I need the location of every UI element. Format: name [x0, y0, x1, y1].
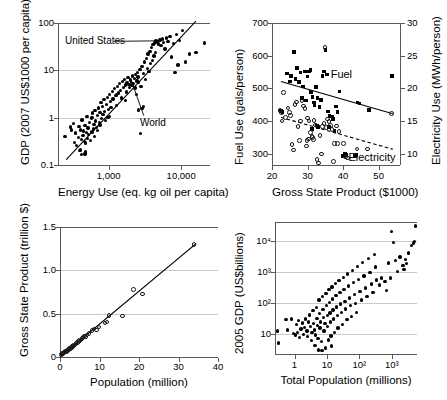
data-point [147, 70, 150, 73]
data-point [277, 341, 280, 344]
data-point [94, 119, 97, 122]
data-point [324, 292, 327, 295]
data-point-fuel [338, 90, 342, 94]
data-point-electricity [365, 147, 370, 152]
data-point [329, 320, 332, 323]
data-point [360, 298, 363, 301]
data-point [337, 279, 340, 282]
data-point-electricity [337, 129, 342, 134]
data-point [192, 242, 197, 247]
data-point [317, 298, 320, 301]
axis-tick-y [54, 165, 58, 166]
data-point [332, 317, 335, 320]
series-label-electricity: Electricity [348, 151, 395, 163]
axis-title-y: Fuel Use (gals/person) [233, 49, 245, 165]
data-point [387, 261, 390, 264]
data-point-electricity [291, 148, 296, 153]
data-point-electricity [304, 144, 309, 149]
data-point [319, 320, 322, 323]
data-point-electricity [297, 138, 302, 143]
data-point-electricity [290, 142, 295, 147]
data-point [102, 98, 105, 101]
data-point [108, 93, 111, 96]
data-point [184, 60, 187, 63]
data-point-fuel [367, 108, 371, 112]
data-point [375, 278, 378, 281]
data-point [63, 135, 66, 138]
data-point-fuel [303, 70, 307, 74]
data-point-electricity [279, 110, 284, 115]
annotation-united-states: United States [65, 35, 125, 46]
data-point [327, 338, 330, 341]
data-point [154, 51, 157, 54]
data-point [414, 224, 417, 227]
data-point-fuel [318, 105, 322, 109]
axis-ticklabel-y-right: 10 [407, 149, 418, 159]
data-point [98, 123, 101, 126]
data-point-fuel [319, 98, 323, 102]
data-point [318, 326, 321, 329]
data-point [313, 328, 316, 331]
data-point [308, 313, 311, 316]
data-point [321, 308, 324, 311]
data-point [125, 90, 128, 93]
axis-title-x: Energy Use (eq. kg oil per capita) [58, 186, 210, 198]
data-point [119, 89, 122, 92]
axis-ticklabel-x: 10 [94, 362, 105, 372]
data-point [145, 57, 148, 60]
data-point-fuel [289, 74, 293, 78]
plot-area: 1010²10³10⁴11010²10³ [275, 222, 417, 354]
data-point [111, 90, 114, 93]
data-point [343, 300, 346, 303]
data-point-fuel [295, 66, 299, 70]
axis-tick-y-right [401, 154, 405, 155]
data-point-fuel [311, 95, 315, 99]
data-point [115, 93, 118, 96]
data-point [311, 309, 314, 312]
data-point-fuel [285, 72, 289, 76]
data-point-fuel [313, 104, 317, 108]
data-point [97, 106, 100, 109]
data-point-fuel [292, 50, 296, 54]
data-point [90, 130, 93, 133]
data-point-fuel [297, 80, 301, 84]
data-point-fuel [331, 117, 335, 121]
data-point [80, 118, 83, 121]
data-point [85, 115, 88, 118]
data-point [333, 331, 336, 334]
data-point-fuel [309, 90, 313, 94]
axis-ticklabel-x: 20 [267, 171, 278, 181]
data-point-electricity [306, 137, 311, 142]
data-point [368, 271, 371, 274]
data-point [364, 286, 367, 289]
plot-area: 00.51.01.5010203040 [60, 227, 218, 357]
data-point [140, 292, 145, 297]
axis-ticklabel-y-right: 30 [407, 18, 418, 28]
data-point-electricity [283, 115, 288, 120]
data-point [138, 68, 141, 71]
data-point-electricity [331, 159, 336, 164]
data-point-fuel [326, 110, 330, 114]
axis-tick-y-right [401, 56, 405, 57]
data-point [144, 78, 147, 81]
data-point [133, 86, 136, 89]
axis-tick-y-right [401, 23, 405, 24]
data-point [81, 134, 84, 137]
axis-ticklabel-x: 50 [373, 171, 384, 181]
data-point [305, 329, 308, 332]
data-point [313, 344, 316, 347]
data-point-fuel [334, 105, 338, 109]
data-point [188, 52, 191, 55]
data-point [143, 60, 146, 63]
data-point [176, 63, 179, 66]
data-point [365, 295, 368, 298]
axis-title-y: Gross State Product (trillion $) [18, 203, 30, 357]
data-point-fuel [288, 80, 292, 84]
axis-ticklabel-x: 20 [134, 362, 145, 372]
data-point-fuel [390, 74, 394, 78]
data-point [301, 321, 304, 324]
data-point [370, 282, 373, 285]
data-point-fuel [304, 99, 308, 103]
axis-ticklabel-x: 1 [292, 360, 297, 370]
